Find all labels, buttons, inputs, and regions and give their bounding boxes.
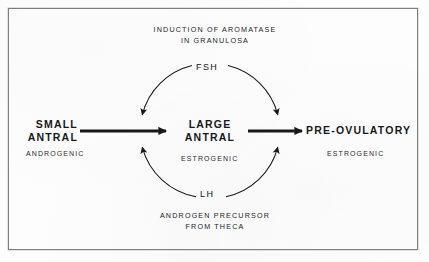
fsh-arc-left [142, 66, 192, 115]
node-large-antral-line1: LARGE [178, 118, 242, 131]
caption-top-line2: IN GRANULOSA [115, 35, 315, 46]
diagram-figure: INDUCTION OF AROMATASE IN GRANULOSA FSH … [0, 0, 429, 262]
fsh-label: FSH [196, 62, 218, 72]
node-small-antral-line1: SMALL [10, 118, 78, 131]
node-pre-ovulatory-steroid: ESTROGENIC [327, 150, 384, 157]
lh-label: LH [200, 189, 214, 199]
caption-bottom-line1: ANDROGEN PRECURSOR [115, 210, 315, 221]
caption-top: INDUCTION OF AROMATASE IN GRANULOSA [115, 24, 315, 46]
node-large-antral-steroid: ESTROGENIC [181, 155, 238, 162]
caption-bottom: ANDROGEN PRECURSOR FROM THECA [115, 210, 315, 232]
node-small-antral-line2: ANTRAL [10, 131, 78, 144]
caption-top-line1: INDUCTION OF AROMATASE [115, 24, 315, 35]
node-small-antral: SMALL ANTRAL [10, 118, 78, 143]
node-pre-ovulatory: PRE-OVULATORY [306, 124, 411, 137]
fsh-arc-right [228, 66, 278, 115]
node-large-antral: LARGE ANTRAL [178, 118, 242, 143]
node-large-antral-line2: ANTRAL [178, 131, 242, 144]
node-small-antral-steroid: ANDROGENIC [26, 150, 84, 157]
caption-bottom-line2: FROM THECA [115, 221, 315, 232]
